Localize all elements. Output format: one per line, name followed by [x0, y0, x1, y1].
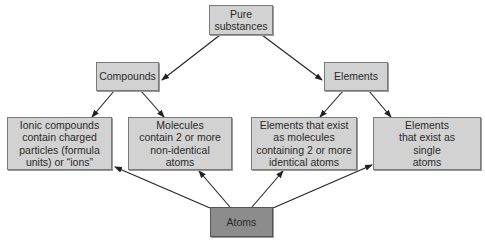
node-label: Compounds: [99, 70, 156, 83]
arrow-compounds-to-ionic: [92, 91, 114, 117]
node-label: Elements that exist as molecules contain…: [255, 119, 353, 169]
node-atoms: Atoms: [210, 207, 273, 237]
arrow-atoms-to-ionic: [115, 167, 210, 208]
node-elements-single-atoms: Elements that exist as single atoms: [373, 117, 481, 170]
node-ionic-compounds: Ionic compounds contain charged particle…: [7, 117, 112, 170]
arrow-elements-to-single: [369, 91, 391, 117]
node-label: Molecules contain 2 or more non-identica…: [139, 119, 221, 169]
node-elements-molecules: Elements that exist as molecules contain…: [251, 117, 357, 170]
node-elements: Elements: [324, 62, 388, 91]
arrow-compounds-to-molecules: [141, 91, 164, 117]
arrow-elements-to-elemmolecules: [320, 91, 343, 117]
node-label: Elements: [334, 70, 378, 83]
arrow-atoms-to-elemmolecules: [252, 171, 283, 207]
node-label: Pure substances: [210, 8, 272, 33]
node-label: Atoms: [227, 216, 257, 229]
node-label: Elements that exist as single atoms: [398, 119, 456, 169]
arrow-pure-to-compounds: [162, 35, 220, 80]
node-molecules-nonidentical: Molecules contain 2 or more non-identica…: [128, 117, 232, 170]
arrow-pure-to-elements: [262, 35, 322, 80]
arrow-atoms-to-single: [273, 165, 372, 208]
arrow-atoms-to-molecules: [199, 171, 230, 207]
node-label: Ionic compounds contain charged particle…: [13, 119, 106, 169]
node-compounds: Compounds: [96, 62, 159, 91]
node-pure-substances: Pure substances: [209, 5, 273, 35]
